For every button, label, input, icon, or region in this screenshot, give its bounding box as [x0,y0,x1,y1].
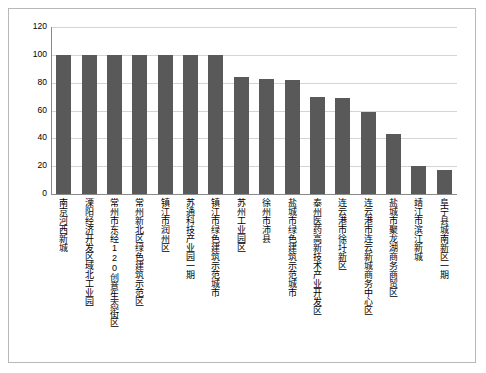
x-tick-label: 连云港市徐圩新区 [338,198,348,270]
y-tick-label: 60 [13,106,47,115]
bar [234,77,249,194]
x-tick-label: 阜宁县城南新区一期 [439,198,449,279]
x-tick-label: 盐城市聚龙湖商务商贸区 [389,198,399,297]
x-tick-label: 南京河西新城 [59,198,69,252]
y-tick-label: 100 [13,50,47,59]
x-tick-label: 盐城市绿色建筑示范城市 [287,198,297,297]
x-tick-label: 徐州市沛县 [262,198,272,243]
x-tick-label: 苏州工业园区 [236,198,246,252]
x-axis-labels: 南京河西新城溧阳经济开发区域北工业园常州市东经120创意生态街区常州新北区绿色建… [51,198,457,348]
bar [386,134,401,194]
bar [107,55,122,194]
bar [361,112,376,194]
bar-series [51,27,457,194]
bar [208,55,223,194]
x-tick-label: 常州市东经120创意生态街区 [109,198,119,327]
x-tick-label: 靖江市滨江新城 [414,198,424,261]
y-tick-label: 40 [13,133,47,142]
y-axis-labels: 020406080100120 [9,9,47,209]
y-tick-label: 80 [13,78,47,87]
bar [411,166,426,194]
y-tick-label: 120 [13,22,47,31]
x-tick-label: 苏通科技产业园一期 [186,198,196,279]
x-tick-label: 溧阳经济开发区域北工业园 [84,198,94,306]
y-tick-label: 20 [13,161,47,170]
x-tick-label: 镇江市润州区 [160,198,170,252]
x-tick-label: 连云港市连云新城商务中心区 [363,198,373,315]
chart-frame: 020406080100120 南京河西新城溧阳经济开发区域北工业园常州市东经1… [8,8,476,363]
bar [132,55,147,194]
bar [285,80,300,194]
x-tick-label: 泰州医药高新技术产业开发区 [312,198,322,315]
x-tick-label: 常州新北区绿色建筑示范区 [135,198,145,306]
y-tick-label: 0 [13,189,47,198]
bar [158,55,173,194]
bar [183,55,198,194]
bar [437,170,452,194]
x-tick-label: 镇江市绿色建筑示范城市 [211,198,221,297]
bar [56,55,71,194]
bar [310,97,325,194]
bar [259,79,274,195]
x-axis-line [51,194,457,195]
bar [335,98,350,194]
bar [82,55,97,194]
